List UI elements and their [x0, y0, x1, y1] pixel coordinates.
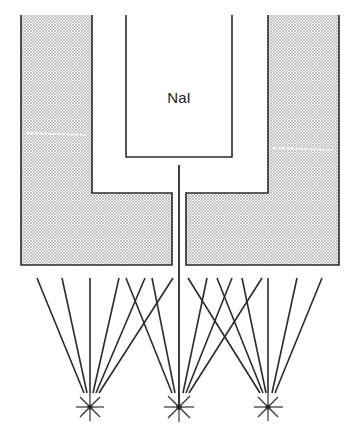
rays-right-source [188, 278, 322, 393]
source-left-star-icon [76, 393, 104, 421]
detector-diagram: NaI [0, 0, 358, 438]
rays-center-source [126, 278, 262, 393]
rays-left-source [37, 278, 173, 393]
right-shield [186, 15, 339, 265]
source-right-star-icon [254, 393, 283, 421]
left-shield [21, 15, 172, 265]
crystal-label: NaI [167, 89, 190, 106]
source-center-star-icon [164, 392, 194, 422]
nai-crystal [126, 15, 232, 157]
